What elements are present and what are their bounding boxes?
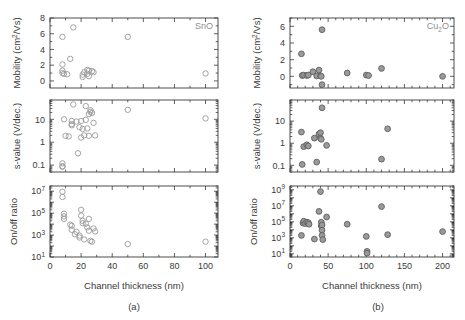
data-points (60, 25, 209, 80)
data-point (319, 27, 325, 33)
x-tick-label: 20 (76, 261, 86, 271)
data-point (305, 143, 311, 149)
panel-caption: (a) (128, 301, 140, 312)
data-point (299, 129, 305, 135)
plot-frame (50, 100, 218, 172)
data-point (299, 162, 305, 168)
data-point (318, 130, 324, 136)
x-tick-label: 150 (397, 261, 412, 271)
x-tick-label: 100 (359, 261, 374, 271)
y-tick-label: 107 (271, 199, 285, 210)
figure-container: 02468Mobility (cm2/Vs)SnO0.1110s-value (… (0, 0, 465, 320)
data-point (440, 229, 446, 235)
data-points (60, 189, 209, 247)
data-point (318, 189, 324, 195)
y-tick-label: 101 (31, 251, 45, 262)
panel-a-sno: 02468Mobility (cm2/Vs)SnO0.1110s-value (… (0, 0, 232, 320)
data-point (379, 156, 385, 162)
y-tick-label: 4 (280, 38, 285, 48)
y-tick-label: 109 (271, 183, 285, 194)
data-point (61, 117, 66, 122)
data-point (324, 214, 330, 220)
y-tick-label: 107 (31, 185, 45, 196)
subplot-a-mobility: 02468Mobility (cm2/Vs)SnO (11, 13, 218, 88)
y-tick-label: 8 (40, 13, 45, 23)
data-point (66, 134, 71, 139)
material-label: Cu2O (427, 21, 449, 33)
data-point (203, 71, 208, 76)
subplot-b-s-value: 0.1110s-value (V/dec.) (251, 100, 454, 172)
data-point (379, 204, 385, 210)
y-tick-label: 10 (35, 115, 45, 125)
y-tick-label: 103 (271, 231, 285, 242)
x-tick-label: 60 (138, 261, 148, 271)
data-point (320, 237, 326, 243)
data-point (385, 126, 391, 132)
data-point (344, 70, 350, 76)
data-point (60, 189, 65, 194)
data-point (78, 213, 83, 218)
panel-a-svg: 02468Mobility (cm2/Vs)SnO0.1110s-value (… (0, 0, 232, 320)
x-tick-label: 100 (198, 261, 213, 271)
x-tick-label: 40 (107, 261, 117, 271)
panel-b-svg: 0246Mobility (cm2/Vs)Cu2O0.1110s-value (… (232, 0, 464, 320)
data-point (306, 221, 312, 227)
data-point (125, 241, 130, 246)
y-axis-title: On/off ratio (248, 198, 259, 245)
data-point (366, 73, 372, 79)
y-tick-label: 0.1 (32, 160, 45, 170)
x-tick-label: 0 (47, 261, 52, 271)
data-points (299, 189, 446, 256)
data-point (385, 232, 391, 238)
y-axis-title: s-value (V/dec.) (251, 103, 262, 170)
data-point (68, 56, 73, 61)
data-point (71, 25, 76, 30)
y-tick-label: 0 (40, 76, 45, 86)
data-point (60, 62, 65, 67)
subplot-a-s-value: 0.1110s-value (V/dec.) (11, 100, 218, 172)
data-point (60, 34, 65, 39)
x-tick-label: 200 (435, 261, 450, 271)
y-tick-label: 105 (31, 207, 45, 218)
data-points (60, 102, 209, 170)
data-point (318, 136, 324, 142)
y-axis-title: On/off ratio (8, 198, 19, 245)
x-axis-title: Channel thickness (nm) (322, 280, 422, 291)
y-axis-title: s-value (V/dec.) (11, 103, 22, 170)
y-tick-label: 4 (40, 45, 45, 55)
data-point (316, 67, 322, 73)
data-point (318, 73, 324, 79)
y-tick-label: 1 (40, 137, 45, 147)
data-point (91, 70, 96, 75)
data-point (344, 221, 350, 227)
y-axis-title: Mobility (cm2/Vs) (251, 17, 262, 88)
data-point (319, 105, 325, 111)
data-point (203, 239, 208, 244)
data-point (60, 194, 65, 199)
subplot-b-mobility: 0246Mobility (cm2/Vs)Cu2O (251, 17, 454, 88)
data-point (364, 250, 370, 256)
panel-caption: (b) (372, 301, 384, 312)
subplot-a-on-off-ratio: 020406080100Channel thickness (nm)101103… (8, 185, 218, 291)
data-point (440, 73, 446, 79)
data-point (83, 103, 88, 108)
data-point (299, 233, 305, 239)
y-tick-label: 0 (280, 72, 285, 82)
data-point (125, 107, 130, 112)
data-point (82, 237, 87, 242)
x-tick-label: 50 (323, 261, 333, 271)
data-point (299, 51, 305, 57)
y-tick-label: 6 (280, 22, 285, 32)
y-tick-label: 1 (280, 138, 285, 148)
data-point (203, 116, 208, 121)
y-tick-label: 0.1 (272, 161, 285, 171)
material-label: SnO (195, 21, 213, 31)
y-tick-label: 101 (271, 247, 285, 258)
y-tick-label: 105 (271, 215, 285, 226)
data-point (71, 102, 76, 107)
data-point (312, 236, 318, 242)
data-point (78, 207, 83, 212)
y-tick-label: 2 (40, 60, 45, 70)
data-point (89, 239, 94, 244)
data-point (319, 82, 325, 88)
